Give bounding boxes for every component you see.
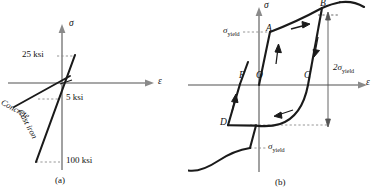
label-5-ksi: 5 ksi: [66, 93, 83, 102]
twice-yield-base: 2σ: [333, 62, 342, 72]
label-twice-yield-stress: 2σyield: [333, 63, 354, 74]
point-label-c: C: [304, 71, 310, 81]
twice-yield-sub: yield: [342, 68, 354, 74]
point-label-o: O: [256, 71, 263, 81]
yield-upper-sub: yield: [227, 31, 239, 37]
label-yield-stress-upper: σyield: [223, 26, 240, 37]
point-label-d: D: [220, 118, 227, 128]
caption-b: (b): [275, 178, 286, 187]
panel-a-epsilon-axis: [8, 80, 154, 87]
label-yield-stress-lower: σyield: [268, 142, 285, 153]
yield-lower-sub: yield: [272, 147, 284, 153]
figure-canvas: σ ε 25 ksi 5 ksi 100 ksi Concrete Cast i…: [0, 0, 376, 195]
arrow-up-OA: [275, 44, 281, 64]
point-label-f: F: [239, 71, 245, 81]
branch-beyond-B: [340, 2, 364, 7]
point-label-b: B: [320, 0, 326, 9]
panel-a-epsilon-label: ε: [158, 77, 162, 87]
branch-C-D: [256, 85, 308, 126]
panel-b-epsilon-label: ε: [366, 78, 370, 88]
panel-a-sigma-label: σ: [69, 19, 74, 29]
curve-cast-iron: [36, 55, 75, 162]
panel-b-graphic: [188, 0, 376, 195]
label-100-ksi: 100 ksi: [66, 156, 92, 165]
panel-b-epsilon-axis: [188, 82, 367, 89]
label-25-ksi: 25 ksi: [22, 50, 44, 59]
arrow-left-CD: [274, 110, 293, 118]
branch-lower-tail: [188, 148, 250, 171]
panel-a-graphic: [0, 0, 188, 195]
panel-b-sigma-label: σ: [264, 1, 269, 11]
point-label-a: A: [266, 24, 272, 34]
branch-lower-drop: [250, 126, 256, 148]
caption-a: (a): [55, 176, 65, 185]
